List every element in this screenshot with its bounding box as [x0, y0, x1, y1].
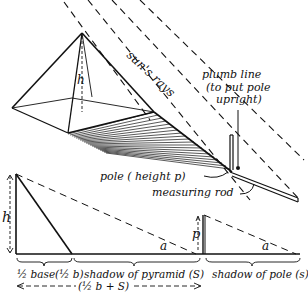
pyramid-shadow-diagram: h sun's rays plumb line (to put pole upr…	[0, 0, 308, 292]
plumb-line-label: plumb line	[202, 68, 262, 81]
pole-label: pole ( height p)	[100, 170, 185, 183]
plumb-bob	[236, 166, 240, 170]
plumb-line-label-3: upright)	[216, 93, 262, 106]
measuring-rod-label: measuring rod	[152, 186, 234, 199]
height-label-h-bottom: h	[2, 209, 11, 225]
angle-label-alpha-1: a	[160, 239, 167, 253]
pole	[230, 135, 233, 172]
pole-pointer	[204, 172, 228, 177]
angle-label-alpha-2: a	[262, 239, 269, 253]
pyramid-shadow-hatching	[68, 112, 230, 169]
half-base-label: ½ base(½ b)	[17, 268, 84, 280]
rod-pointer	[240, 184, 254, 194]
pole-height-label-p: p	[192, 226, 201, 241]
shadow-pole-label: shadow of pole (s)	[212, 268, 308, 280]
shadow-pyramid-label: shadow of pyramid (S)	[84, 268, 204, 280]
shadow-edge	[154, 112, 232, 172]
suns-rays-label: sun's rays	[124, 48, 178, 100]
total-length-label: (½ b + S)	[78, 280, 129, 292]
height-label-h: h	[77, 73, 85, 87]
